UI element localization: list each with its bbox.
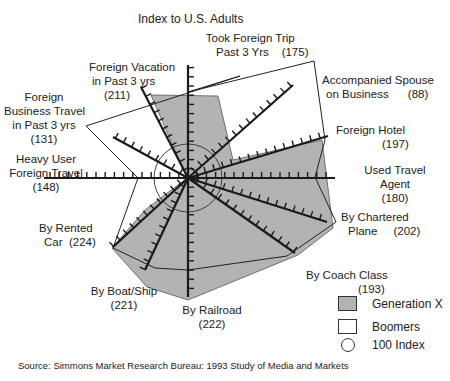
label-text: Used Travel bbox=[355, 163, 435, 177]
label-text: By Railroad bbox=[182, 303, 242, 317]
source-note: Source: Simmons Market Research Bureau: … bbox=[18, 360, 349, 371]
label-text: Plane bbox=[348, 225, 377, 237]
label-text: Car bbox=[44, 236, 63, 248]
legend-swatch-gray bbox=[338, 296, 357, 311]
label-value: (148) bbox=[6, 180, 86, 194]
label-text: By Boat/Ship bbox=[88, 284, 160, 298]
label-foreign-hotel: Foreign Hotel (197) bbox=[336, 123, 409, 151]
label-value: (180) bbox=[355, 191, 435, 205]
legend-swatch-outline bbox=[338, 319, 357, 334]
label-foreign-business: Foreign Business Travel in Past 3 yrs (1… bbox=[4, 90, 84, 146]
label-rented-car: By Rented Car (224) bbox=[39, 221, 96, 249]
label-accompanied-spouse: Accompanied Spouse on Business (88) bbox=[322, 73, 434, 101]
label-value: (88) bbox=[408, 88, 428, 100]
label-text: Business Travel bbox=[4, 104, 84, 118]
label-text: By Chartered bbox=[341, 210, 420, 224]
legend-generation-x: Generation X bbox=[338, 296, 443, 311]
label-value: (131) bbox=[4, 132, 84, 146]
label-value: (193) bbox=[306, 282, 388, 296]
legend-100-index: 100 Index bbox=[339, 338, 425, 352]
label-text: in Past 3 yrs bbox=[4, 118, 84, 132]
label-value: (224) bbox=[69, 236, 96, 248]
label-heavy-user: Heavy User Foreign Travel (148) bbox=[6, 152, 86, 194]
label-text: Foreign Vacation bbox=[89, 60, 175, 74]
label-value: (221) bbox=[88, 298, 160, 312]
label-railroad: By Railroad (222) bbox=[182, 303, 242, 331]
label-text: By Coach Class bbox=[306, 268, 388, 282]
label-text: Accompanied Spouse bbox=[322, 73, 434, 87]
legend-label: 100 Index bbox=[372, 338, 425, 352]
label-text: Heavy User bbox=[6, 152, 86, 166]
label-text: Foreign Travel bbox=[6, 166, 86, 180]
label-chartered-plane: By Chartered Plane (202) bbox=[341, 210, 420, 238]
label-value: (202) bbox=[393, 225, 420, 237]
legend-label: Generation X bbox=[372, 297, 443, 311]
label-text: on Business bbox=[326, 88, 389, 100]
legend-circle-icon bbox=[341, 338, 355, 352]
label-value: (222) bbox=[182, 317, 242, 331]
label-text: Took Foreign Trip bbox=[192, 31, 308, 45]
label-text: in Past 3 yrs bbox=[89, 74, 175, 88]
label-value: (197) bbox=[336, 137, 409, 151]
label-value: (175) bbox=[282, 46, 309, 58]
label-text: Foreign Hotel bbox=[336, 123, 409, 137]
label-text: By Rented bbox=[39, 221, 96, 235]
label-took-foreign-trip: Took Foreign Trip Past 3 Yrs (175) bbox=[192, 31, 308, 59]
label-boat-ship: By Boat/Ship (221) bbox=[88, 284, 160, 312]
label-text: Past 3 Yrs bbox=[216, 46, 269, 58]
label-foreign-vacation: Foreign Vacation in Past 3 yrs (211) bbox=[89, 60, 175, 102]
label-used-travel-agent: Used Travel Agent (180) bbox=[355, 163, 435, 205]
label-coach-class: By Coach Class (193) bbox=[306, 268, 388, 296]
label-text: Agent bbox=[355, 177, 435, 191]
label-text: Foreign bbox=[4, 90, 84, 104]
label-value: (211) bbox=[89, 88, 175, 102]
legend-label: Boomers bbox=[372, 320, 420, 334]
legend-boomers: Boomers bbox=[338, 319, 420, 334]
